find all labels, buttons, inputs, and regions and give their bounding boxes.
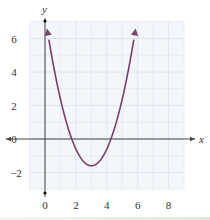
x-tick-label: 6 [135,199,141,211]
parabola-chart: 02468−20246 x y [0,0,210,220]
y-tick-label: 6 [11,33,17,45]
y-axis-label: y [41,3,47,15]
y-tick-label: −2 [10,167,22,179]
bottom-divider [0,217,210,220]
x-axis-neg-arrow-icon [6,137,11,141]
x-axis-label: x [198,133,204,145]
y-tick-label: 0 [11,133,17,145]
x-tick-label: 2 [73,199,79,211]
x-tick-label: 4 [104,199,110,211]
y-tick-label: 2 [11,100,17,112]
y-axis-top-dot-icon [43,19,46,22]
x-axis-arrow-icon [190,137,195,141]
x-tick-label: 8 [166,199,172,211]
y-axis-bottom-dot-icon [43,191,46,194]
y-tick-label: 4 [11,66,17,78]
x-tick-label: 0 [42,199,48,211]
